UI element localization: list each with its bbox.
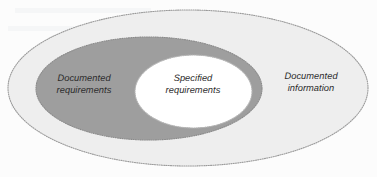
diagram-container: Documented requirements Specified requir… <box>0 0 377 177</box>
inner-ellipse-specified-requirements <box>135 55 252 128</box>
nested-ellipse-venn-diagram <box>0 0 377 177</box>
